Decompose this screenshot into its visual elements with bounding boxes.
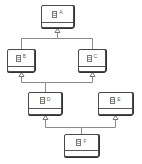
class-divider [65, 150, 98, 151]
class-label: C [94, 54, 98, 59]
class-divider [29, 108, 61, 109]
class-node-c[interactable]: C [78, 49, 106, 72]
edge-d-c [46, 76, 93, 83]
edge-f-e [82, 119, 116, 128]
arrowhead-e-icon [113, 116, 118, 120]
class-node-e[interactable]: E [98, 92, 133, 115]
class-node-a[interactable]: A [41, 5, 74, 28]
class-icon [16, 55, 21, 62]
class-label: D [47, 97, 51, 102]
edge-b-a [22, 39, 58, 50]
class-icon [87, 55, 92, 62]
edge-c-a [58, 39, 93, 50]
class-icon [110, 97, 115, 104]
class-node-f[interactable]: F [64, 134, 99, 157]
class-divider [99, 108, 132, 109]
arrowhead-d-icon [43, 116, 48, 120]
class-label: B [23, 54, 26, 59]
class-icon [40, 97, 45, 104]
arrowhead-c-icon [90, 73, 95, 77]
class-divider [79, 66, 105, 67]
class-label: A [59, 10, 62, 15]
class-icon [52, 11, 57, 18]
edge-f-d [46, 119, 82, 134]
class-divider [8, 66, 34, 67]
class-label: F [83, 139, 86, 144]
diagram-canvas: A B C D E F [0, 0, 142, 164]
class-node-b[interactable]: B [7, 49, 35, 72]
class-node-d[interactable]: D [28, 92, 62, 115]
arrowhead-a-icon [55, 29, 60, 33]
class-divider [42, 22, 73, 23]
edge-d-b [22, 76, 46, 92]
class-icon [76, 139, 81, 146]
class-label: E [117, 97, 120, 102]
arrowhead-b-icon [19, 73, 24, 77]
